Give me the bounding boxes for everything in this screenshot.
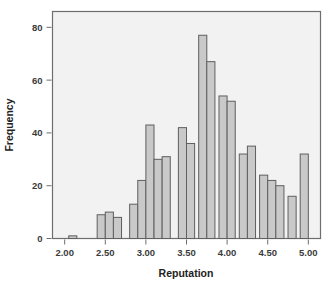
histogram-bar [288,196,296,238]
x-tick-label: 5.00 [299,247,318,258]
histogram-bar [113,217,121,238]
histogram-bar [69,236,77,239]
histogram-bar [276,186,284,239]
histogram-bar [199,35,207,238]
histogram-bar [219,96,227,239]
y-tick-label: 40 [32,127,43,138]
x-tick-label: 4.50 [258,247,277,258]
x-tick-label: 2.00 [55,247,74,258]
chart-canvas: 2.002.503.003.504.004.505.00 020406080 R… [0,0,330,283]
x-tick-label: 3.00 [137,247,156,258]
y-axis-title: Frequency [3,98,15,151]
histogram-bar [207,62,215,239]
x-axis-title: Reputation [159,267,214,279]
y-tick-label: 20 [32,180,43,191]
histogram-bar [138,180,146,238]
histogram-bar [187,143,195,238]
histogram-figure: 2.002.503.003.504.004.505.00 020406080 R… [0,0,330,283]
histogram-bar [268,180,276,238]
histogram-bar [162,157,170,239]
histogram-bar [105,212,113,238]
histogram-bar [154,159,162,238]
y-tick-label: 0 [37,233,42,244]
histogram-bar [97,215,105,239]
histogram-bar [239,154,247,238]
histogram-bar [227,101,235,238]
x-tick-label: 3.50 [177,247,196,258]
histogram-bar [247,146,255,238]
histogram-bar [300,154,308,238]
y-tick-label: 80 [32,22,43,33]
x-tick-label: 2.50 [96,247,115,258]
histogram-bar [146,125,154,239]
x-tick-label: 4.00 [218,247,237,258]
y-tick-label: 60 [32,75,43,86]
histogram-bar [178,128,186,239]
histogram-bar [130,204,138,238]
histogram-bar [260,175,268,238]
